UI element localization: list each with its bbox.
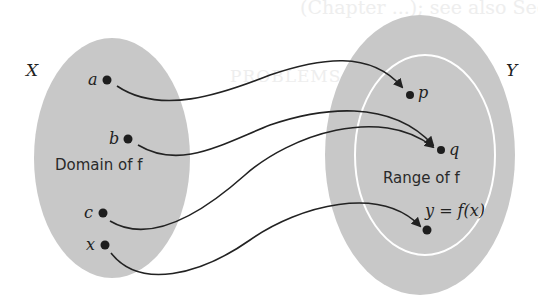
domain-region-label: Domain of f <box>55 156 143 174</box>
domain-set-label: X <box>24 60 39 80</box>
point-c <box>99 209 108 218</box>
codomain-ellipse <box>325 15 515 295</box>
point-a-label: a <box>88 70 98 89</box>
point-x <box>101 241 110 250</box>
point-p <box>406 91 414 99</box>
point-b-label: b <box>109 129 119 148</box>
point-c-label: c <box>84 203 93 222</box>
point-a <box>103 76 112 85</box>
point-x-label: x <box>86 235 95 254</box>
codomain-set <box>325 15 515 295</box>
point-y-label: y = f(x) <box>424 201 485 220</box>
point-p-label: p <box>418 83 428 102</box>
point-q-label: q <box>449 140 459 159</box>
codomain-set-label: Y <box>506 60 519 80</box>
point-q <box>437 146 445 154</box>
point-y <box>423 226 432 235</box>
function-mapping-diagram: (Chapter ...); see also Section 4-12). P… <box>0 0 538 299</box>
range-region-label: Range of f <box>383 169 461 187</box>
point-b <box>124 135 133 144</box>
